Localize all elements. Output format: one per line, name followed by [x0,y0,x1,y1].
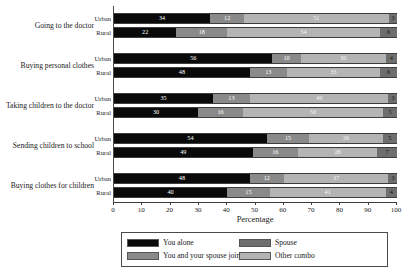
chart-legend: You aloneSpouseYou and your spouse joint… [121,232,388,267]
bar-segment: 15 [227,188,269,197]
bar-segment: 7 [377,148,397,157]
bar-value-label: 6 [387,29,390,35]
legend-item[interactable]: Spouse [239,238,382,247]
bar-segment: 54 [227,28,380,37]
legend-item[interactable]: You alone [127,238,239,247]
bar-segment: 10 [272,54,300,63]
bar-value-label: 30 [153,109,159,115]
bar-segment: 35 [114,94,213,103]
bar-segment: 37 [284,174,389,183]
axis-tick-label: 50 [251,206,258,214]
axis-tick [396,202,397,205]
bar-value-label: 22 [142,29,148,35]
legend-label: You and your spouse jointly [163,251,248,260]
legend-label: You alone [163,238,194,247]
bar-segment: 3 [389,14,397,23]
axis-tick-label: 70 [308,206,315,214]
legend-swatch-icon [127,239,159,247]
bar-value-label: 37 [333,175,339,181]
subgroup-label: Urban [95,15,111,23]
axis-tick-label: 10 [138,206,145,214]
bar-row: 3016505 [114,107,397,118]
bar-segment: 16 [253,148,298,157]
axis-tick-label: 30 [194,206,201,214]
subgroup-label: Rural [96,29,111,37]
axis-tick [283,202,284,205]
bar-segment: 54 [114,134,267,143]
bar-value-label: 3 [391,95,394,101]
bar-value-label: 48 [179,175,185,181]
legend-label: Other combo [275,251,315,260]
bar-value-label: 4 [390,189,393,195]
bar-value-label: 35 [160,95,166,101]
bar-value-label: 26 [343,135,349,141]
bar-segment: 13 [250,68,287,77]
bar-value-label: 49 [316,95,322,101]
subgroup-label: Rural [96,109,111,117]
bar-segment: 6 [380,68,397,77]
axis-tick [170,202,171,205]
axis-tick-label: 40 [223,206,230,214]
bar-segment: 49 [250,94,389,103]
bar-value-label: 49 [180,149,186,155]
axis-tick [226,202,227,205]
bar-value-label: 15 [245,189,251,195]
stacked-bar-chart: Going to the doctorBuying personal cloth… [0,0,411,273]
bar-segment: 22 [114,28,176,37]
bar-value-label: 51 [313,15,319,21]
bar-value-label: 16 [272,149,278,155]
bar-value-label: 54 [301,29,307,35]
axis-tick [368,202,369,205]
bar-segment: 26 [309,134,383,143]
bar-segment: 30 [301,54,386,63]
legend-item[interactable]: Other combo [239,251,382,260]
bar-row: 4812373 [114,173,397,184]
legend-swatch-icon [239,239,271,247]
bar-value-label: 12 [224,15,230,21]
bar-value-label: 3 [391,175,394,181]
bar-segment: 5 [383,108,397,117]
bar-value-label: 13 [265,69,271,75]
bar-segment: 12 [210,14,244,23]
bar-segment: 51 [244,14,388,23]
category-axis-labels: Going to the doctorBuying personal cloth… [0,6,94,202]
subgroup-label: Urban [95,55,111,63]
bar-row: 3513493 [114,93,397,104]
axis-tick [339,202,340,205]
bar-value-label: 10 [284,55,290,61]
bar-segment: 13 [213,94,250,103]
bar-segment: 48 [114,68,250,77]
subgroup-label: Urban [95,95,111,103]
bar-segment: 33 [287,68,380,77]
x-axis-title: Percentage [113,215,397,225]
bar-value-label: 15 [285,135,291,141]
bar-value-label: 12 [264,175,270,181]
bar-row: 5415265 [114,133,397,144]
bar-value-label: 40 [168,189,174,195]
bar-value-label: 54 [187,135,193,141]
subgroup-label: Rural [96,149,111,157]
bar-value-label: 41 [325,189,331,195]
subgroup-label: Urban [95,175,111,183]
bar-segment: 48 [114,174,250,183]
bar-segment: 5 [383,134,397,143]
axis-tick-label: 0 [111,206,115,214]
bar-row: 2218546 [114,27,397,38]
legend-item[interactable]: You and your spouse jointly [127,251,239,260]
axis-tick [141,202,142,205]
subgroup-label: Urban [95,135,111,143]
bar-segment: 30 [114,108,198,117]
axis-tick [311,202,312,205]
bar-value-label: 3 [391,15,394,21]
subgroup-label: Rural [96,69,111,77]
bar-segment: 12 [250,174,284,183]
bar-value-label: 56 [190,55,196,61]
bar-segment: 49 [114,148,253,157]
axis-tick-label: 100 [391,206,402,214]
bar-segment: 3 [388,174,396,183]
bar-value-label: 50 [310,109,316,115]
bar-segment: 34 [114,14,210,23]
bar-segment: 56 [114,54,272,63]
category-label: Taking children to the doctor [0,101,94,110]
bar-value-label: 48 [179,69,185,75]
